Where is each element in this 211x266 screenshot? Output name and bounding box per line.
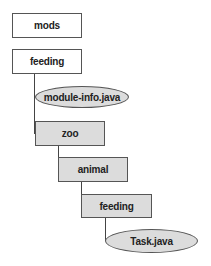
package-node-zoo: zoo: [35, 121, 105, 146]
node-label: mods: [34, 20, 60, 31]
file-node-module-info: module-info.java: [35, 86, 129, 108]
folder-node-mods: mods: [12, 13, 82, 38]
package-node-feeding: feeding: [81, 194, 152, 218]
node-label: module-info.java: [44, 92, 120, 103]
folder-node-feeding-module: feeding: [12, 49, 82, 74]
node-label: Task.java: [130, 236, 173, 247]
node-label: zoo: [62, 128, 79, 139]
node-label: feeding: [99, 201, 133, 212]
node-label: feeding: [30, 56, 64, 67]
package-node-animal: animal: [58, 157, 128, 182]
node-label: animal: [78, 164, 108, 175]
file-node-task-java: Task.java: [105, 229, 198, 253]
